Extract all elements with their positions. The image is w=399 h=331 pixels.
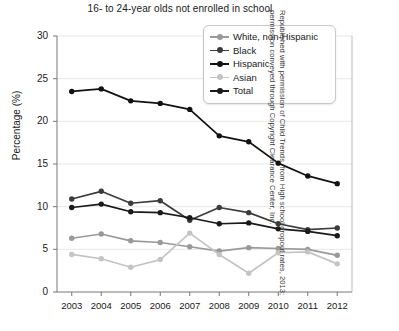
data-point xyxy=(335,225,340,230)
series-line xyxy=(72,233,338,273)
data-point xyxy=(158,101,163,106)
data-point xyxy=(99,189,104,194)
legend-label: Total xyxy=(233,85,253,96)
data-point xyxy=(335,253,340,258)
data-point xyxy=(128,98,133,103)
figure-container: 16- to 24-year olds not enrolled in scho… xyxy=(0,0,399,331)
data-point xyxy=(69,205,74,210)
data-point xyxy=(335,181,340,186)
data-point xyxy=(99,256,104,261)
legend-label: Hispanic xyxy=(233,58,269,69)
data-point xyxy=(246,210,251,215)
line-chart-plot xyxy=(0,0,399,331)
data-point xyxy=(158,240,163,245)
data-point xyxy=(69,252,74,257)
data-point xyxy=(305,249,310,254)
y-tick-label: 30 xyxy=(22,30,48,41)
y-tick-label: 15 xyxy=(22,158,48,169)
legend-label: Asian xyxy=(233,72,257,83)
y-tick-label: 25 xyxy=(22,73,48,84)
data-point xyxy=(246,271,251,276)
series-black xyxy=(69,189,340,233)
data-point xyxy=(69,89,74,94)
data-point xyxy=(158,210,163,215)
data-point xyxy=(217,221,222,226)
y-tick-marks xyxy=(53,36,57,292)
y-tick-label: 5 xyxy=(22,243,48,254)
data-point xyxy=(246,220,251,225)
y-tick-label: 20 xyxy=(22,115,48,126)
data-point xyxy=(69,196,74,201)
x-tick-label: 2012 xyxy=(317,300,357,311)
x-tick-marks xyxy=(72,292,338,296)
legend-marker-icon xyxy=(210,32,229,42)
data-series-layer xyxy=(69,86,340,276)
data-point xyxy=(246,245,251,250)
data-point xyxy=(69,236,74,241)
data-point xyxy=(187,244,192,249)
data-point xyxy=(335,233,340,238)
data-point xyxy=(217,133,222,138)
credit-note: Republished with permission of Child Tre… xyxy=(268,10,287,310)
legend-label: Black xyxy=(233,45,256,56)
legend-marker-icon xyxy=(210,72,229,82)
data-point xyxy=(99,201,104,206)
series-line xyxy=(72,204,338,236)
data-point xyxy=(128,201,133,206)
data-point xyxy=(187,215,192,220)
data-point xyxy=(217,252,222,257)
series-line xyxy=(72,191,338,229)
legend-marker-icon xyxy=(210,59,229,69)
data-point xyxy=(158,257,163,262)
y-tick-label: 10 xyxy=(22,201,48,212)
data-point xyxy=(335,261,340,266)
legend-marker-icon xyxy=(210,45,229,55)
data-point xyxy=(128,209,133,214)
data-point xyxy=(305,173,310,178)
data-point xyxy=(158,198,163,203)
data-point xyxy=(128,238,133,243)
series-asian xyxy=(69,230,340,276)
data-point xyxy=(305,229,310,234)
data-point xyxy=(187,107,192,112)
legend-marker-icon xyxy=(210,86,229,96)
data-point xyxy=(128,265,133,270)
data-point xyxy=(99,231,104,236)
data-point xyxy=(187,230,192,235)
data-point xyxy=(99,86,104,91)
data-point xyxy=(217,205,222,210)
data-point xyxy=(246,139,251,144)
y-tick-label: 0 xyxy=(22,286,48,297)
